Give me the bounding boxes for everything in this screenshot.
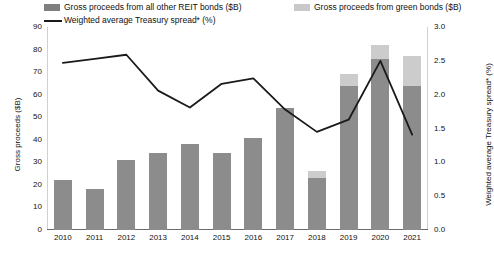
x-label-2011: 2011 xyxy=(79,233,111,242)
bar-segment-other-reit-bonds-2012[interactable] xyxy=(117,160,135,230)
light-square-swatch xyxy=(294,4,310,11)
legend-item-green-bonds: Gross proceeds from green bonds ($B) xyxy=(294,3,461,12)
bar-slot-2012 xyxy=(117,27,135,230)
bar-slot-2010 xyxy=(54,27,72,230)
left-tick-70: 70 xyxy=(33,68,42,76)
bar-slot-2018 xyxy=(308,27,326,230)
right-tick-2.0: 2.0 xyxy=(434,91,445,99)
bar-segment-green-bonds-2020[interactable] xyxy=(371,45,389,59)
x-label-2018: 2018 xyxy=(301,233,333,242)
stacked-bar-2018[interactable] xyxy=(308,171,326,230)
bar-slot-2019 xyxy=(340,27,358,230)
right-tick-1.5: 1.5 xyxy=(434,125,445,133)
x-label-2021: 2021 xyxy=(396,233,428,242)
bar-slot-2020 xyxy=(371,27,389,230)
bar-slot-2015 xyxy=(213,27,231,230)
bar-segment-other-reit-bonds-2019[interactable] xyxy=(340,86,358,230)
stacked-bar-2021[interactable] xyxy=(403,56,421,230)
left-axis-line xyxy=(47,27,48,230)
stacked-bar-2011[interactable] xyxy=(86,189,104,230)
left-tick-60: 60 xyxy=(33,91,42,99)
stacked-bar-2010[interactable] xyxy=(54,180,72,230)
left-tick-50: 50 xyxy=(33,113,42,121)
bar-segment-other-reit-bonds-2010[interactable] xyxy=(54,180,72,230)
left-tick-40: 40 xyxy=(33,136,42,144)
legend-label-all-other-reit-bonds: Gross proceeds from all other REIT bonds… xyxy=(64,3,241,12)
x-label-2014: 2014 xyxy=(174,233,206,242)
bar-segment-other-reit-bonds-2013[interactable] xyxy=(149,153,167,230)
left-tick-90: 90 xyxy=(33,23,42,31)
x-label-2010: 2010 xyxy=(47,233,79,242)
legend-label-treasury-spread: Weighted average Treasury spread* (%) xyxy=(64,16,216,25)
x-label-2017: 2017 xyxy=(269,233,301,242)
bar-slot-2011 xyxy=(86,27,104,230)
right-tick-3.0: 3.0 xyxy=(434,23,445,31)
bar-slot-2013 xyxy=(149,27,167,230)
stacked-bar-2013[interactable] xyxy=(149,153,167,230)
x-label-2020: 2020 xyxy=(364,233,396,242)
left-tick-10: 10 xyxy=(33,203,42,211)
bar-segment-other-reit-bonds-2021[interactable] xyxy=(403,86,421,230)
bar-segment-other-reit-bonds-2014[interactable] xyxy=(181,144,199,230)
right-axis-line xyxy=(427,27,428,230)
bar-segment-other-reit-bonds-2015[interactable] xyxy=(213,153,231,230)
bar-segment-other-reit-bonds-2017[interactable] xyxy=(276,108,294,230)
bar-segment-other-reit-bonds-2020[interactable] xyxy=(371,59,389,230)
left-tick-30: 30 xyxy=(33,158,42,166)
bar-segment-other-reit-bonds-2011[interactable] xyxy=(86,189,104,230)
x-label-2013: 2013 xyxy=(142,233,174,242)
dark-square-swatch xyxy=(44,4,60,11)
right-tick-2.5: 2.5 xyxy=(434,57,445,65)
plot-area: 0102030405060708090 0.00.51.01.52.02.53.… xyxy=(47,27,428,230)
bar-segment-green-bonds-2018[interactable] xyxy=(308,171,326,178)
bar-segment-other-reit-bonds-2018[interactable] xyxy=(308,178,326,230)
left-tick-80: 80 xyxy=(33,46,42,54)
stacked-bar-2014[interactable] xyxy=(181,144,199,230)
bar-slot-2016 xyxy=(244,27,262,230)
x-label-2015: 2015 xyxy=(206,233,238,242)
legend-label-green-bonds: Gross proceeds from green bonds ($B) xyxy=(314,3,461,12)
stacked-bar-2017[interactable] xyxy=(276,108,294,230)
left-tick-0: 0 xyxy=(38,226,42,234)
bar-slot-2021 xyxy=(403,27,421,230)
treasury-spread-line xyxy=(63,55,412,135)
x-label-2016: 2016 xyxy=(237,233,269,242)
right-tick-0.0: 0.0 xyxy=(434,226,445,234)
bar-segment-other-reit-bonds-2016[interactable] xyxy=(244,138,262,230)
legend-item-all-other-reit-bonds: Gross proceeds from all other REIT bonds… xyxy=(44,3,241,12)
right-tick-1.0: 1.0 xyxy=(434,158,445,166)
x-label-2019: 2019 xyxy=(333,233,365,242)
stacked-bar-2020[interactable] xyxy=(371,45,389,230)
stacked-bar-2012[interactable] xyxy=(117,160,135,230)
bar-segment-green-bonds-2021[interactable] xyxy=(403,56,421,85)
left-axis-title: Gross proceeds ($B) xyxy=(13,70,22,200)
stacked-bar-2015[interactable] xyxy=(213,153,231,230)
bar-slot-2017 xyxy=(276,27,294,230)
right-axis-title: Weighted average Treasury spread* (%) xyxy=(484,55,493,215)
stacked-bar-2016[interactable] xyxy=(244,138,262,230)
treasury-spread-chart: Gross proceeds from all other REIT bonds… xyxy=(0,0,494,254)
bar-slot-2014 xyxy=(181,27,199,230)
bar-segment-green-bonds-2019[interactable] xyxy=(340,74,358,85)
legend-item-treasury-spread: Weighted average Treasury spread* (%) xyxy=(44,16,216,25)
line-swatch xyxy=(44,20,62,22)
left-tick-20: 20 xyxy=(33,181,42,189)
stacked-bar-2019[interactable] xyxy=(340,74,358,230)
x-label-2012: 2012 xyxy=(110,233,142,242)
right-tick-0.5: 0.5 xyxy=(434,192,445,200)
